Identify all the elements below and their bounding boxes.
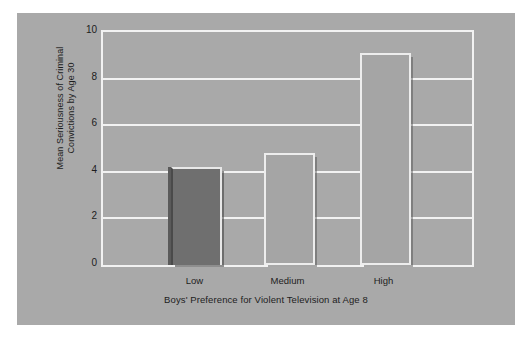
- x-tick-label-low: Low: [169, 275, 220, 286]
- bar-high[interactable]: [360, 53, 411, 265]
- plot-area: [101, 30, 474, 267]
- y-tick-label-0: 0: [71, 258, 97, 268]
- x-tick-label-high: High: [358, 275, 409, 286]
- y-tick-label-4: 4: [71, 165, 97, 175]
- y-tick-label-2: 2: [71, 211, 97, 221]
- y-axis-title-line-1: Mean Seriousness of Criminal: [55, 47, 67, 170]
- bar-low[interactable]: [171, 167, 222, 265]
- chart-screenshot: Mean Seriousness of Criminal Convictions…: [0, 0, 532, 341]
- y-tick-label-6: 6: [71, 118, 97, 128]
- y-tick-label-10: 10: [71, 25, 97, 35]
- bars-layer: [103, 32, 472, 265]
- x-axis-title: Boys' Preference for Violent Television …: [17, 294, 515, 306]
- bar-medium[interactable]: [264, 153, 315, 265]
- y-axis-tick-labels: 10 8 6 4 2 0: [67, 30, 97, 263]
- x-tick-label-medium: Medium: [262, 275, 313, 286]
- figure-card: Mean Seriousness of Criminal Convictions…: [17, 13, 515, 325]
- y-tick-label-8: 8: [71, 72, 97, 82]
